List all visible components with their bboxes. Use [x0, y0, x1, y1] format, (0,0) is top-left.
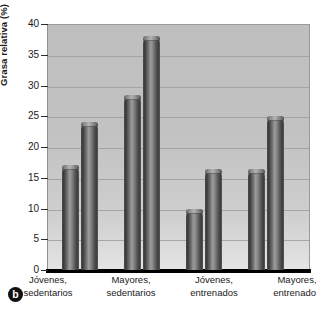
panel-letter-badge: b: [8, 287, 23, 302]
x-axis-category-label: Mayores,sedentarios: [89, 274, 173, 299]
figure: Grasa relativa (%) 4035302520151050 Jóve…: [0, 0, 316, 321]
y-axis-tick: [41, 116, 48, 117]
bar: [186, 209, 203, 271]
bar: [124, 95, 141, 270]
bar-cap: [81, 122, 98, 127]
bar-cap: [205, 169, 222, 174]
x-axis-category-line1: Mayores,: [255, 274, 316, 287]
y-axis-tick-label: 5: [5, 234, 39, 244]
y-axis-tick-label: 10: [5, 204, 39, 214]
bar-cap: [143, 36, 160, 41]
bar-cap: [267, 116, 284, 121]
y-axis-tick: [41, 178, 48, 179]
gridline: [48, 56, 309, 57]
bar-cap: [62, 165, 79, 170]
y-axis-tick-label: 30: [5, 81, 39, 91]
bar-cap: [248, 169, 265, 174]
bar: [267, 116, 284, 270]
y-axis-tick: [41, 55, 48, 56]
bar: [205, 169, 222, 270]
gridline: [48, 87, 309, 88]
y-axis-tick-label: 20: [5, 142, 39, 152]
y-axis-tick: [41, 270, 48, 271]
y-axis-tick: [41, 24, 48, 25]
bar: [143, 36, 160, 270]
bar: [62, 165, 79, 270]
x-axis-category-line1: Jóvenes,: [172, 274, 256, 287]
y-axis-tick-label: 25: [5, 111, 39, 121]
x-axis-category-label: Mayores,entrenados: [255, 274, 316, 299]
x-axis-category-line2: sedentarios: [89, 287, 173, 300]
y-axis-tick: [41, 209, 48, 210]
y-axis-tick: [41, 147, 48, 148]
y-axis-tick: [41, 86, 48, 87]
y-axis-title: Grasa relativa (%): [0, 0, 9, 92]
panel-letter-label: b: [12, 288, 18, 300]
y-axis-tick-label: 35: [5, 50, 39, 60]
y-axis-tick: [41, 239, 48, 240]
x-axis-category-label: Jóvenes,entrenados: [172, 274, 256, 299]
y-axis-tick-label: 15: [5, 173, 39, 183]
bar: [248, 169, 265, 270]
bar: [81, 122, 98, 270]
x-axis-category-line1: Mayores,: [89, 274, 173, 287]
y-axis-title-label: Grasa relativa (%): [0, 4, 9, 92]
bar-cap: [124, 95, 141, 100]
x-axis-category-line2: entrenados: [172, 287, 256, 300]
bar-cap: [186, 209, 203, 214]
x-axis-category-line1: Jóvenes,: [6, 274, 90, 287]
y-axis-tick-label: 40: [5, 19, 39, 29]
x-axis-category-line2: entrenados: [255, 287, 316, 300]
